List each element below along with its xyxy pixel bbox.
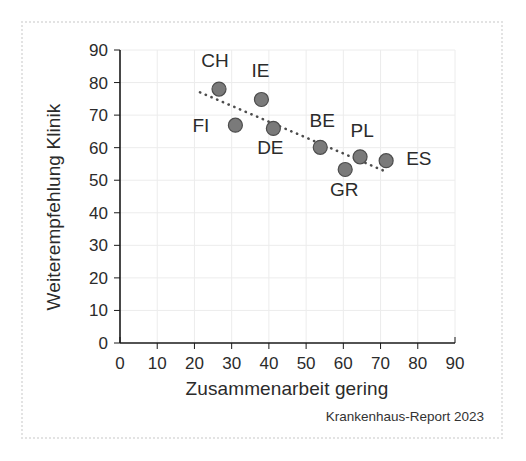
x-tick-label: 40 bbox=[259, 354, 278, 373]
x-tick-label: 10 bbox=[148, 354, 167, 373]
y-axis-title: Weiterempfehlung Klinik bbox=[43, 57, 65, 357]
x-tick-label: 80 bbox=[408, 354, 427, 373]
x-tick-label: 50 bbox=[297, 354, 316, 373]
data-point-label-pl: PL bbox=[350, 120, 373, 141]
x-tick-label: 20 bbox=[185, 354, 204, 373]
data-point-fi[interactable] bbox=[228, 118, 242, 132]
data-point-label-be: BE bbox=[310, 110, 335, 131]
data-point-be[interactable] bbox=[313, 140, 327, 154]
data-point-es[interactable] bbox=[379, 154, 393, 168]
x-axis-title: Zusammenarbeit gering bbox=[0, 378, 526, 400]
x-tick-label: 70 bbox=[371, 354, 390, 373]
y-tick-label: 70 bbox=[89, 106, 108, 125]
y-tick-label: 90 bbox=[89, 41, 108, 60]
data-point-label-de: DE bbox=[257, 137, 283, 158]
figure-footnote: Krankenhaus-Report 2023 bbox=[326, 409, 484, 424]
data-point-de[interactable] bbox=[266, 121, 280, 135]
data-point-ie[interactable] bbox=[254, 92, 268, 106]
x-tick-label: 30 bbox=[222, 354, 241, 373]
y-tick-label: 80 bbox=[89, 74, 108, 93]
y-tick-label: 50 bbox=[89, 171, 108, 190]
data-point-label-fi: FI bbox=[192, 115, 209, 136]
data-point-gr[interactable] bbox=[338, 162, 352, 176]
chart-figure: 01020304050607080900102030405060708090CH… bbox=[0, 0, 526, 461]
x-tick-label: 60 bbox=[334, 354, 353, 373]
grid-lines bbox=[120, 50, 455, 343]
y-tick-label: 0 bbox=[99, 334, 108, 353]
y-tick-label: 30 bbox=[89, 236, 108, 255]
y-tick-label: 10 bbox=[89, 301, 108, 320]
data-point-label-gr: GR bbox=[330, 179, 359, 200]
data-point-label-es: ES bbox=[406, 148, 431, 169]
y-tick-label: 20 bbox=[89, 269, 108, 288]
x-tick-label: 0 bbox=[115, 354, 124, 373]
y-tick-label: 60 bbox=[89, 139, 108, 158]
data-point-ch[interactable] bbox=[212, 82, 226, 96]
data-point-label-ie: IE bbox=[251, 60, 269, 81]
data-point-pl[interactable] bbox=[353, 150, 367, 164]
y-tick-label: 40 bbox=[89, 204, 108, 223]
x-tick-label: 90 bbox=[446, 354, 465, 373]
data-point-label-ch: CH bbox=[201, 50, 228, 71]
